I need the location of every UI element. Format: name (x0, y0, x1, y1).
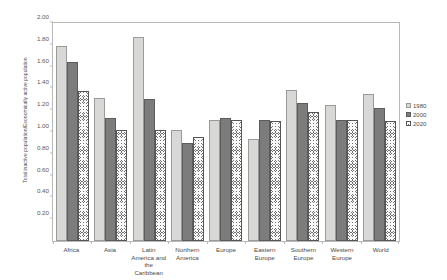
x-axis-tick-mark (398, 241, 399, 244)
bar-1980[interactable] (286, 90, 297, 242)
bar-2020[interactable] (193, 137, 204, 241)
bar-group-bars (322, 23, 360, 241)
y-axis-tick-label: 0.80 (37, 143, 49, 150)
legend-swatch-icon (406, 112, 411, 117)
bar-group-bars (284, 23, 322, 241)
bar-group (168, 23, 206, 241)
y-axis-tick-label: 1.80 (37, 34, 49, 41)
chart-legend: 198020002020 (406, 101, 444, 128)
legend-item[interactable]: 2020 (406, 119, 444, 128)
bar-group (361, 23, 399, 241)
legend-label: 1980 (413, 103, 426, 109)
bar-2020[interactable] (347, 120, 358, 241)
bar-2000[interactable] (144, 99, 155, 241)
x-axis-label: World (361, 246, 400, 276)
y-axis-tick-label: 0.20 (37, 209, 49, 216)
bar-group (130, 23, 168, 241)
bar-2020[interactable] (270, 121, 281, 241)
bar-1980[interactable] (133, 37, 144, 241)
x-axis-label: WesternEurope (323, 246, 362, 276)
bar-2000[interactable] (105, 118, 116, 241)
x-axis-tick-mark (207, 241, 208, 244)
x-axis-label: Europe (207, 246, 246, 276)
bar-1980[interactable] (209, 120, 220, 241)
bar-2000[interactable] (220, 118, 231, 241)
bar-group (207, 23, 245, 241)
x-axis-label: SouthernEurope (284, 246, 323, 276)
bar-2000[interactable] (336, 120, 347, 241)
bar-2020[interactable] (385, 121, 396, 241)
y-axis-title: Total inactive population/Economically a… (18, 0, 32, 240)
x-axis-tick-mark (91, 241, 92, 244)
bar-2020[interactable] (308, 112, 319, 241)
legend-label: 2020 (413, 121, 426, 127)
bar-2020[interactable] (231, 120, 242, 241)
bar-1980[interactable] (248, 139, 259, 241)
bar-2000[interactable] (182, 143, 193, 241)
bar-group (245, 23, 283, 241)
y-axis-tick-label: 2.00 (37, 13, 49, 20)
x-axis-tick-mark (322, 241, 323, 244)
x-axis-tick-mark (53, 241, 54, 244)
y-axis-tick-label: 0.40 (37, 187, 49, 194)
bar-group-bars (207, 23, 245, 241)
bar-1980[interactable] (363, 94, 374, 241)
y-axis-tick-label: 0.60 (37, 165, 49, 172)
plot-area: 0.200.400.600.801.001.201.401.601.802.00 (52, 22, 400, 242)
legend-item[interactable]: 2000 (406, 110, 444, 119)
x-axis-tick-mark (361, 241, 362, 244)
bar-2000[interactable] (374, 108, 385, 241)
bar-chart-figure: Total inactive population/Economically a… (0, 0, 447, 280)
legend-swatch-icon (406, 103, 411, 108)
bar-group-bars (361, 23, 399, 241)
x-axis-label: Africa (52, 246, 91, 276)
bar-2000[interactable] (67, 62, 78, 241)
x-axis-label: LatinAmerica andtheCaribbean (129, 246, 168, 276)
y-axis-tick-label: 1.40 (37, 78, 49, 85)
legend-swatch-icon (406, 121, 411, 126)
bar-2000[interactable] (259, 120, 270, 241)
bar-2020[interactable] (116, 130, 127, 241)
bar-1980[interactable] (171, 130, 182, 241)
x-axis-tick-mark (168, 241, 169, 244)
x-axis-tick-mark (245, 241, 246, 244)
bar-group-bars (245, 23, 283, 241)
bar-1980[interactable] (325, 105, 336, 241)
y-axis-tick-label: 1.60 (37, 56, 49, 63)
legend-label: 2000 (413, 112, 426, 118)
y-axis-tick-label: 1.20 (37, 100, 49, 107)
bar-2020[interactable] (155, 130, 166, 241)
bar-groups (53, 23, 399, 241)
x-axis-tick-mark (130, 241, 131, 244)
x-axis-label: NorthernAmerica (168, 246, 207, 276)
bar-group (91, 23, 129, 241)
x-axis-tick-mark (284, 241, 285, 244)
bar-1980[interactable] (94, 98, 105, 241)
bar-2000[interactable] (297, 103, 308, 241)
legend-item[interactable]: 1980 (406, 101, 444, 110)
bar-1980[interactable] (56, 46, 67, 241)
x-axis-labels: AfricaAsiaLatinAmerica andtheCaribbeanNo… (52, 246, 400, 276)
bar-group (284, 23, 322, 241)
y-axis-tick-label: 1.00 (37, 122, 49, 129)
bar-2020[interactable] (78, 91, 89, 241)
x-axis-label: EasternEurope (245, 246, 284, 276)
bar-group (322, 23, 360, 241)
bar-group (53, 23, 91, 241)
bar-group-bars (168, 23, 206, 241)
bar-group-bars (53, 23, 91, 241)
bar-group-bars (91, 23, 129, 241)
x-axis-label: Asia (91, 246, 130, 276)
bar-group-bars (130, 23, 168, 241)
